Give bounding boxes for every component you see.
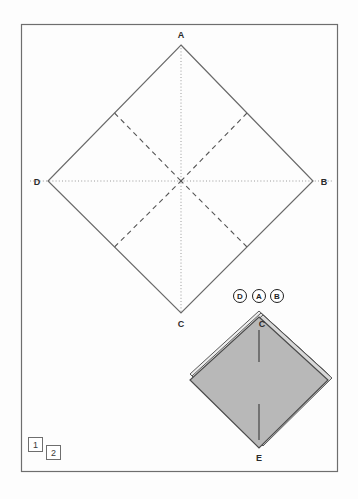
vertex-label-d: D [34, 177, 41, 187]
step-box-1[interactable]: 1 [29, 438, 43, 452]
flap-label-a-group: A [253, 290, 266, 303]
vertex-label-a: A [178, 30, 185, 40]
step-box-1-label: 1 [33, 440, 38, 450]
step-boxes-group: 1 2 [29, 438, 61, 460]
figure-2-group: D A B C E [190, 290, 332, 464]
crease-mid-ad-center [115, 113, 182, 181]
figure-1-group: A B C D [30, 30, 332, 329]
crease-mid-cd-center [115, 181, 182, 247]
folded-vertex-label-e: E [256, 453, 262, 463]
flap-label-a-text: A [256, 292, 262, 301]
flap-label-b-text: B [274, 292, 280, 301]
step-box-2-label: 2 [51, 448, 56, 458]
vertex-label-b: B [321, 177, 328, 187]
origami-diagram-canvas: A B C D D A [0, 0, 358, 499]
flap-label-d-group: D [234, 290, 247, 303]
flap-label-b-group: B [271, 290, 284, 303]
flap-label-d-text: D [237, 292, 243, 301]
diagram-page: A B C D D A [0, 0, 358, 499]
vertex-label-c: C [178, 319, 185, 329]
step-box-2[interactable]: 2 [47, 446, 61, 460]
crease-mid-bc-center [181, 181, 247, 247]
folded-vertex-label-c: C [259, 319, 266, 329]
crease-mid-ab-center [181, 113, 247, 181]
